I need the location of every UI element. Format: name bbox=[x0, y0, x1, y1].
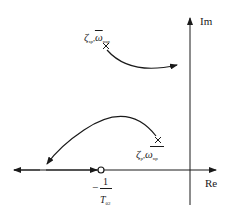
phugoid-pole-marker bbox=[155, 137, 161, 143]
phugoid-label-bar bbox=[150, 146, 164, 147]
zero-label-fraction-bar bbox=[100, 188, 112, 189]
short-period-locus-branch bbox=[107, 50, 177, 68]
phugoid-pole-label: ζp,ωnp bbox=[136, 145, 158, 161]
root-locus-diagram bbox=[0, 0, 230, 213]
zero-label-numerator: 1 bbox=[103, 177, 108, 187]
real-axis-label: Re bbox=[205, 178, 217, 189]
short-period-pole-label: ζsp,ωnsp bbox=[84, 28, 110, 44]
zero-label-minus: − bbox=[92, 182, 98, 193]
imaginary-axis-label: Im bbox=[200, 16, 212, 27]
zero-label-denominator: Tθ2 bbox=[100, 190, 110, 206]
zero-marker bbox=[98, 167, 104, 173]
